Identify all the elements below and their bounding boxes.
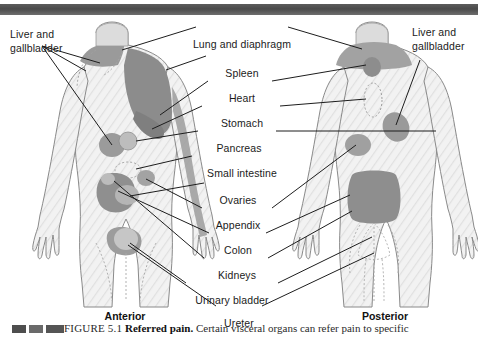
label-text: Heart [229, 92, 255, 104]
center-label-stomach: Stomach [221, 117, 263, 130]
center-label-spleen: Spleen [225, 67, 258, 80]
center-label-kidneys: Kidneys [218, 269, 256, 282]
center-label-appendix: Appendix [216, 219, 261, 232]
region-pancreas-anterior [119, 132, 137, 150]
center-label-pancreas: Pancreas [216, 142, 261, 155]
corner-label-liver-gallbladder-left: Liver and gallbladder [10, 28, 84, 55]
center-label-small-intestine: Small intestine [207, 167, 277, 180]
figure-title: Referred pain. [125, 322, 193, 334]
label-text: Urinary bladder [195, 294, 268, 306]
corner-label-liver-gallbladder-right: Liver and gallbladder [412, 26, 478, 53]
center-label-lung-and-diaphragm: Lung and diaphragm [193, 38, 291, 51]
posterior-thigh-right [382, 259, 384, 301]
caption-marker-swatches [12, 325, 64, 333]
header-rule-bar [0, 4, 478, 15]
label-text: Lung and diaphragm [193, 38, 291, 50]
caption-text: FIGURE 5.1 Referred pain. Certain viscer… [64, 322, 409, 334]
region-ovary-right-anterior [101, 173, 115, 185]
leader-spleen-ant [166, 56, 206, 70]
label-text: Appendix [216, 219, 261, 231]
label-text: Ovaries [220, 194, 257, 206]
label-text: Liver and gallbladder [412, 26, 464, 52]
figure-number: FIGURE 5.1 [64, 322, 122, 334]
region-colon-posterior [348, 171, 401, 224]
figure-caption-rest: Certain visceral organs can refer pain t… [193, 322, 408, 334]
region-appendix-anterior [137, 170, 155, 186]
leader-lung-post [288, 27, 362, 49]
leader-lung-ant [122, 27, 196, 50]
posterior-body-figure [293, 22, 478, 307]
label-text: Small intestine [207, 167, 277, 179]
label-text: Colon [224, 244, 252, 256]
region-heart-posterior [363, 57, 381, 77]
illustration-canvas: Lung and diaphragm Spleen Heart Stomach … [0, 15, 478, 344]
center-label-colon: Colon [224, 244, 252, 257]
figure-caption: FIGURE 5.1 Referred pain. Certain viscer… [0, 320, 478, 344]
region-lung-diaphragm-anterior [80, 46, 124, 67]
anterior-body-figure [33, 22, 220, 307]
figure-root: Lung and diaphragm Spleen Heart Stomach … [0, 0, 478, 344]
center-label-heart: Heart [229, 92, 255, 105]
anterior-neck [96, 23, 128, 46]
label-text: Spleen [225, 67, 258, 79]
region-kidney-posterior [345, 134, 371, 156]
center-label-ovaries: Ovaries [220, 194, 257, 207]
label-text: Stomach [221, 117, 263, 129]
label-text: Pancreas [216, 142, 261, 154]
label-text: Liver and gallbladder [10, 28, 62, 54]
label-text: Kidneys [218, 269, 256, 281]
center-label-urinary-bladder: Urinary bladder [195, 294, 268, 307]
